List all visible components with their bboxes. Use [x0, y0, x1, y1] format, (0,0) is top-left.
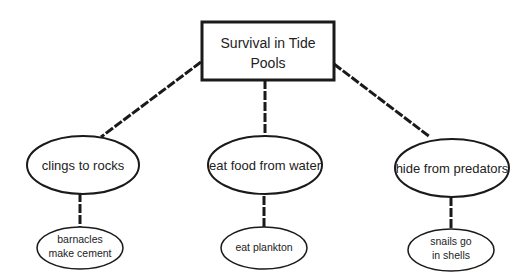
root-label-line2: Pools	[250, 55, 285, 71]
root-label-line1: Survival in Tide	[221, 35, 316, 51]
child-label-line1: barnacles	[57, 233, 103, 245]
child-node-barnacles: barnacles make cement	[37, 227, 123, 269]
child-node-plankton: eat plankton	[221, 227, 307, 269]
child-label-line1: snails go	[430, 235, 472, 247]
child-node-snails: snails go in shells	[408, 229, 494, 271]
child-label-line2: in shells	[432, 249, 470, 261]
branch-node-hide: hide from predators	[395, 139, 509, 197]
branch-node-eat-food: eat food from water	[208, 136, 322, 194]
branch-label: eat food from water	[209, 158, 322, 173]
root-node: Survival in Tide Pools	[202, 22, 334, 80]
branch-label: hide from predators	[396, 161, 509, 176]
connector-root-right	[334, 64, 430, 137]
connector-root-left	[101, 62, 201, 137]
child-label-line2: make cement	[48, 247, 111, 259]
child-label-line1: eat plankton	[235, 241, 292, 253]
branch-label: clings to rocks	[42, 158, 125, 173]
branch-node-clings: clings to rocks	[27, 136, 139, 194]
concept-map: Survival in Tide Pools clings to rocks e…	[0, 0, 532, 280]
